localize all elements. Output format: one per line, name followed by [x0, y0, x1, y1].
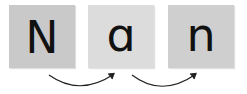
curved-arrow-icon — [132, 74, 196, 87]
curved-arrow-icon — [49, 74, 114, 86]
arrows-layer — [0, 0, 247, 94]
